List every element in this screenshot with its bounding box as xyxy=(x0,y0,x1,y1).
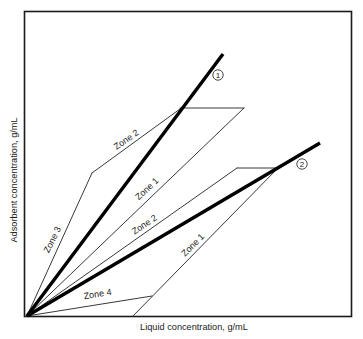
zone4-label: Zone 4 xyxy=(83,287,112,301)
zone1-upper-line xyxy=(27,108,244,316)
zone2-upper-line xyxy=(92,109,180,173)
y-axis-label: Adsorbent concentration, g/mL xyxy=(9,117,19,242)
marker-1-label: 1 xyxy=(216,71,221,80)
zone1-upper-label: Zone 1 xyxy=(133,176,160,202)
marker-2: 2 xyxy=(297,159,307,169)
x-axis-label: Liquid concentration, g/mL xyxy=(140,322,248,332)
marker-2-label: 2 xyxy=(300,160,305,169)
marker-1: 1 xyxy=(213,70,223,80)
adsorption-zone-diagram: 1 2 Zone 3 Zone 2 Zone 1 Zone 2 Zone 1 Z… xyxy=(0,0,363,339)
operating-line-1 xyxy=(27,54,223,316)
operating-line-2 xyxy=(27,143,320,316)
zone3-label: Zone 3 xyxy=(42,225,63,255)
